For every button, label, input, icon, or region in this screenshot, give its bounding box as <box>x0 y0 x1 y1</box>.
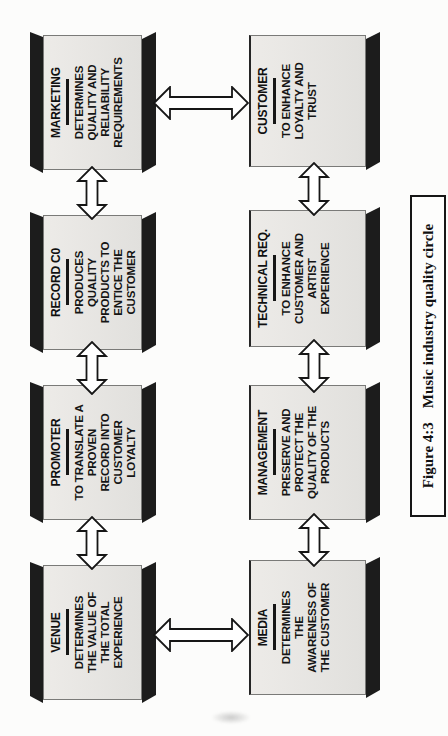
title-underline <box>273 430 276 476</box>
box-text-line: PRESERVE AND <box>280 409 293 497</box>
diagram-box-media: MEDIA DETERMINES THE AWARENESS OF THE CU… <box>249 560 380 695</box>
box-title: PROMOTER <box>49 419 63 487</box>
diagram-box-customer: CUSTOMER TO ENHANCE LOYALTY AND TRUST <box>249 35 380 167</box>
box-text-line: QUALITY <box>86 258 99 307</box>
box-text-line: REQUIREMENTS <box>112 57 125 147</box>
box-text-line: TRUST <box>306 82 319 119</box>
title-underline <box>66 610 69 656</box>
box-title: MARKETING <box>49 67 63 138</box>
box-text-line: PROVEN <box>86 429 99 476</box>
diagram-box-venue: VENUE DETERMINES THE VALUE OF THE TOTAL … <box>30 565 156 700</box>
box-3d-bottom-edge <box>366 207 380 350</box>
box-text-line: TO ENHANCE <box>280 242 293 316</box>
box-face: PROMOTER TO TRANSLATE A PROVEN RECORD IN… <box>43 385 142 520</box>
box-text-line: RECORD INTO <box>99 413 112 491</box>
double-arrow-icon <box>75 341 109 395</box>
double-arrow-icon <box>297 513 331 567</box>
diagram-box-management: MANAGEMENT PRESERVE AND PROTECT THE QUAL… <box>249 385 380 520</box>
title-underline <box>66 260 69 306</box>
box-text-line: AWARENESS OF <box>306 582 319 672</box>
box-face: MANAGEMENT PRESERVE AND PROTECT THE QUAL… <box>249 385 366 520</box>
box-face: TECHNICAL REQ. TO ENHANCE CUSTOMER AND A… <box>249 210 366 347</box>
box-3d-bottom-edge <box>142 382 156 523</box>
box-text-line: THE VALUE OF <box>86 592 99 673</box>
box-title: CUSTOMER <box>256 68 270 135</box>
box-text-line: LOYALTY <box>125 427 138 477</box>
box-text-line: QUALITY OF THE <box>306 406 319 499</box>
box-text-line: THE TOTAL <box>99 602 112 664</box>
box-text-line: PRODUCTS <box>319 421 332 484</box>
box-3d-top-edge <box>30 212 43 353</box>
box-face: CUSTOMER TO ENHANCE LOYALTY AND TRUST <box>249 35 366 167</box>
book-page: VENUE DETERMINES THE VALUE OF THE TOTAL … <box>0 0 448 736</box>
box-text-line: CUSTOMER <box>112 421 125 485</box>
box-text-line: THE <box>293 616 306 638</box>
title-underline <box>273 256 276 302</box>
box-text-line: CUSTOMER <box>125 251 138 315</box>
box-face: MARKETING DETERMINES QUALITY AND RELIABI… <box>43 35 142 170</box>
box-text-line: THE CUSTOMER <box>319 583 332 672</box>
box-3d-top-edge <box>30 562 43 703</box>
box-face: MEDIA DETERMINES THE AWARENESS OF THE CU… <box>249 560 366 695</box>
diagram-box-promoter: PROMOTER TO TRANSLATE A PROVEN RECORD IN… <box>30 385 156 520</box>
box-text-line: PRODUCTS TO <box>99 242 112 323</box>
title-underline <box>273 605 276 651</box>
box-text-line: DETERMINES <box>73 66 86 139</box>
title-underline <box>273 78 276 124</box>
box-text-line: DETERMINES <box>73 596 86 669</box>
box-text-line: RELIABILITY <box>99 68 112 137</box>
box-text-line: PRODUCES <box>73 251 86 315</box>
double-arrow-icon <box>297 339 331 393</box>
title-underline <box>66 80 69 126</box>
box-text-line: TO ENHANCE <box>280 64 293 138</box>
double-arrow-icon <box>75 516 109 570</box>
box-text-line: ENTICE THE <box>112 249 125 315</box>
box-text-line: EXPERIENCE <box>319 242 332 314</box>
figure-caption-title: Music industry quality circle <box>420 224 437 408</box>
diagram-box-technical-req: TECHNICAL REQ. TO ENHANCE CUSTOMER AND A… <box>249 210 380 347</box>
box-3d-bottom-edge <box>366 382 380 523</box>
box-title: TECHNICAL REQ. <box>256 229 270 328</box>
box-text-line: TO TRANSLATE A <box>73 405 86 501</box>
double-arrow-icon <box>153 86 249 120</box>
box-title: MANAGEMENT <box>256 410 270 495</box>
double-arrow-icon <box>297 162 331 216</box>
box-3d-bottom-edge <box>366 557 380 698</box>
box-text-line: PROTECT THE <box>293 413 306 492</box>
box-face: RECORD C0 PRODUCES QUALITY PRODUCTS TO E… <box>43 215 142 350</box>
box-text-line: DETERMINES <box>280 591 293 664</box>
box-text-line: EXPERIENCE <box>112 596 125 668</box>
box-text-line: CUSTOMER AND <box>293 233 306 324</box>
box-3d-top-edge <box>30 32 43 173</box>
box-title: VENUE <box>49 612 63 652</box>
title-underline <box>66 430 69 476</box>
box-3d-bottom-edge <box>366 32 380 170</box>
box-text-line: QUALITY AND <box>86 65 99 141</box>
box-3d-bottom-edge <box>142 212 156 353</box>
box-3d-top-edge <box>30 382 43 523</box>
diagram-box-marketing: MARKETING DETERMINES QUALITY AND RELIABI… <box>30 35 156 170</box>
figure-caption: Figure 4:3 Music industry quality circle <box>410 195 446 517</box>
box-title: MEDIA <box>256 609 270 647</box>
quality-circle-diagram: VENUE DETERMINES THE VALUE OF THE TOTAL … <box>0 0 448 736</box>
box-text-line: ARTIST <box>306 258 319 298</box>
box-text-line: LOYALTY AND <box>293 62 306 139</box>
figure-caption-label: Figure 4:3 <box>420 422 437 488</box>
double-arrow-icon <box>153 618 249 652</box>
page-number-smudge <box>211 711 251 724</box>
diagram-box-record-co: RECORD C0 PRODUCES QUALITY PRODUCTS TO E… <box>30 215 156 350</box>
double-arrow-icon <box>75 166 109 220</box>
box-face: VENUE DETERMINES THE VALUE OF THE TOTAL … <box>43 565 142 700</box>
box-title: RECORD C0 <box>49 248 63 317</box>
